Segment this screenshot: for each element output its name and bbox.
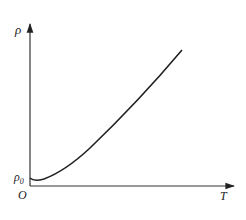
rho-t-curve (30, 50, 182, 180)
origin-label: O (18, 188, 27, 202)
y-axis-label: ρ (14, 22, 21, 37)
rho0-label: ρ0 (13, 170, 24, 186)
x-axis-label: T (220, 189, 228, 203)
chart: ρ T O ρ0 (0, 0, 246, 220)
